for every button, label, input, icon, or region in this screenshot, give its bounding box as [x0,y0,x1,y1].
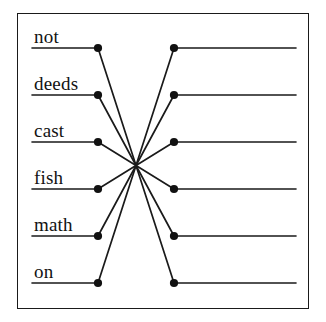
left-endpoint-fish[interactable] [94,185,102,193]
left-label-on: on [34,262,53,281]
left-label-not: not [34,27,59,46]
right-endpoint-5[interactable] [170,232,178,240]
left-label-cast: cast [34,121,64,140]
left-endpoint-math[interactable] [94,232,102,240]
right-endpoint-3[interactable] [170,138,178,146]
right-dots [170,44,178,287]
left-label-math: math [34,215,73,234]
left-label-deeds: deeds [34,74,78,93]
right-endpoint-4[interactable] [170,185,178,193]
left-endpoint-on[interactable] [94,279,102,287]
left-endpoint-cast[interactable] [94,138,102,146]
left-dots [94,44,102,287]
left-label-fish: fish [34,168,63,187]
left-endpoint-not[interactable] [94,44,102,52]
right-endpoint-1[interactable] [170,44,178,52]
connection-lines [98,48,174,283]
matching-diagram: notdeedscastfishmathon [0,0,326,322]
left-endpoint-deeds[interactable] [94,91,102,99]
right-endpoint-6[interactable] [170,279,178,287]
right-endpoint-2[interactable] [170,91,178,99]
right-rules [174,48,296,283]
